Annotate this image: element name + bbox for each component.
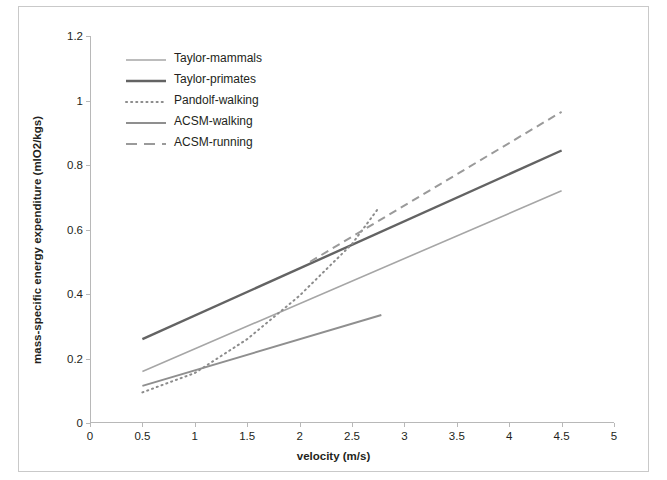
legend-item[interactable]: Taylor-mammals (124, 50, 262, 66)
x-axis-tick-label: 3.5 (449, 430, 465, 442)
x-axis-tick-mark (562, 423, 563, 427)
legend-item[interactable]: ACSM-walking (124, 113, 262, 129)
x-axis-tick-mark (352, 423, 353, 427)
x-axis-tick-mark (247, 423, 248, 427)
x-axis-tick-label: 4.5 (554, 430, 570, 442)
x-axis-title-text: velocity (m/s) (297, 450, 371, 462)
x-axis-tick-label: 4 (506, 430, 512, 442)
y-axis-tick-mark (86, 36, 90, 37)
legend-label: ACSM-running (174, 136, 253, 148)
y-axis-tick-mark (86, 294, 90, 295)
x-axis-tick-mark (457, 423, 458, 427)
y-axis-tick-mark (86, 230, 90, 231)
x-axis-tick-label: 3 (401, 430, 407, 442)
x-axis-tick-label: 5 (611, 430, 617, 442)
x-axis-tick-label: 0.5 (134, 430, 150, 442)
x-axis-tick-mark (142, 423, 143, 427)
legend-swatch-icon (124, 73, 168, 85)
legend-label: ACSM-walking (174, 115, 253, 127)
legend-label: Taylor-mammals (174, 52, 262, 64)
legend-item[interactable]: ACSM-running (124, 134, 262, 150)
series-line-acsm-walking (142, 315, 381, 386)
y-axis-tick-label: 1 (77, 95, 83, 107)
y-axis-tick-mark (86, 359, 90, 360)
legend-swatch-icon (124, 115, 168, 127)
chart-figure: mass-specific energy expenditure (mlO2/k… (18, 6, 649, 472)
x-axis-title: velocity (m/s) (19, 450, 648, 462)
legend-swatch-icon (124, 52, 168, 64)
y-axis-title-text: mass-specific energy expenditure (mlO2/k… (31, 116, 43, 364)
y-axis-tick-label: 0 (77, 417, 83, 429)
x-axis-tick-label: 1 (192, 430, 198, 442)
y-axis-tick-mark (86, 165, 90, 166)
x-axis-tick-label: 2.5 (344, 430, 360, 442)
y-axis-title: mass-specific energy expenditure (mlO2/k… (29, 7, 45, 473)
y-axis-tick-label: 0.6 (67, 224, 83, 236)
series-line-taylor-mammals (142, 191, 561, 372)
y-axis-tick-label: 0.4 (67, 288, 83, 300)
series-line-acsm-running (310, 112, 562, 262)
legend-item[interactable]: Taylor-primates (124, 71, 262, 87)
y-axis-tick-mark (86, 101, 90, 102)
y-axis-tick-label: 0.8 (67, 159, 83, 171)
legend-swatch-icon (124, 94, 168, 106)
legend-label: Pandolf-walking (174, 94, 259, 106)
x-axis-tick-mark (509, 423, 510, 427)
legend-item[interactable]: Pandolf-walking (124, 92, 262, 108)
x-axis-tick-mark (90, 423, 91, 427)
x-axis-tick-label: 1.5 (239, 430, 255, 442)
legend-label: Taylor-primates (174, 73, 256, 85)
chart-legend: Taylor-mammalsTaylor-primatesPandolf-wal… (124, 50, 262, 150)
x-axis-tick-label: 2 (296, 430, 302, 442)
x-axis-tick-mark (300, 423, 301, 427)
legend-swatch-icon (124, 136, 168, 148)
y-axis-tick-label: 1.2 (67, 30, 83, 42)
x-axis-tick-mark (614, 423, 615, 427)
x-axis-tick-label: 0 (87, 430, 93, 442)
series-line-pandolf-walking (142, 209, 378, 393)
x-axis-tick-mark (404, 423, 405, 427)
x-axis-tick-mark (195, 423, 196, 427)
y-axis-tick-label: 0.2 (67, 353, 83, 365)
